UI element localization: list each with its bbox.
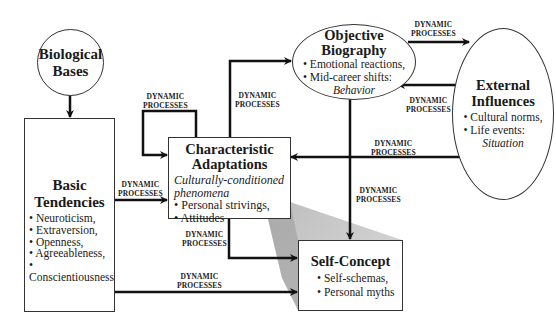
label-line: DYNAMIC [235,91,280,100]
list-item: • Extraversion, [29,225,114,237]
objective-biography-title: Objective Biography [321,28,386,58]
edge-label-external-to-adaptations: DYNAMIC PROCESSES [371,139,416,157]
characteristic-adaptations-list: • Personal strivings, • Attitudes [169,199,290,224]
title-line: Objective [321,28,386,43]
label-line: PROCESSES [118,189,163,198]
list-item: • Agreeableness, [29,248,114,260]
node-self-concept: Self-Concept • Self-schemas, • Personal … [298,240,403,311]
characteristic-adaptations-title: Characteristic Adaptations [169,142,290,172]
label-line: DYNAMIC [143,92,188,101]
edge-label-biography-to-external: DYNAMIC PROCESSES [411,20,456,38]
title-line: Tendencies [25,194,114,211]
list-item: • Self-schemas, [317,272,402,286]
self-concept-title: Self-Concept [299,253,402,270]
external-influences-list: • Cultural norms, • Life events: [463,111,542,137]
list-item: • Emotional reactions, [303,58,405,71]
label-line: DYNAMIC [118,180,163,189]
label-line: DYNAMIC [177,272,222,281]
label-line: DYNAMIC [406,96,451,105]
edge-label-self-loop: DYNAMIC PROCESSES [143,92,188,110]
characteristic-adaptations-subtitle: Culturally-conditioned phenomena [169,174,290,199]
label-line: PROCESSES [235,100,280,109]
title-line: Bases [39,63,102,80]
edge-label-external-to-biography: DYNAMIC PROCESSES [406,96,451,114]
behavior-tag: Behavior [333,84,375,97]
subtitle-line: Culturally-conditioned [174,174,290,187]
node-biological-bases: Biological Bases [37,29,104,96]
edge-label-to-objective-biography: DYNAMIC PROCESSES [235,91,280,109]
situation-tag: Situation [482,137,524,150]
label-line: PROCESSES [356,195,401,204]
edge-label-basic-to-self-concept: DYNAMIC PROCESSES [177,272,222,290]
list-item: • Attitudes [174,212,290,225]
label-line: DYNAMIC [356,186,401,195]
node-characteristic-adaptations: Characteristic Adaptations Culturally-co… [168,137,291,219]
basic-tendencies-title: Basic Tendencies [25,177,114,211]
list-item: • Conscientiousness [29,260,114,284]
list-item: • Mid-career shifts: [303,71,405,84]
label-line: PROCESSES [406,105,451,114]
node-basic-tendencies: Basic Tendencies • Neuroticism, • Extrav… [24,118,115,312]
title-line: Biological [39,46,102,63]
label-line: DYNAMIC [411,20,456,29]
title-line: Characteristic [169,142,290,157]
biological-bases-title: Biological Bases [39,46,102,80]
node-external-influences: External Influences • Cultural norms, • … [452,28,554,200]
external-influences-title: External Influences [471,78,535,109]
title-line: External [471,78,535,94]
self-concept-list: • Self-schemas, • Personal myths [299,272,402,299]
label-line: PROCESSES [411,29,456,38]
label-line: PROCESSES [371,148,416,157]
objective-biography-list: • Emotional reactions, • Mid-career shif… [303,58,405,84]
title-line: Adaptations [169,157,290,172]
edge-label-adaptations-to-self-concept: DYNAMIC PROCESSES [182,230,227,248]
label-line: PROCESSES [177,281,222,290]
basic-tendencies-list: • Neuroticism, • Extraversion, • Opennes… [25,213,114,284]
list-item: • Personal strivings, [174,199,290,212]
label-line: PROCESSES [182,239,227,248]
list-item: • Personal myths [317,286,402,300]
label-line: DYNAMIC [371,139,416,148]
title-line: Biography [321,43,386,58]
title-line: Influences [471,94,535,110]
label-line: DYNAMIC [182,230,227,239]
title-line: Basic [25,177,114,194]
label-line: PROCESSES [143,101,188,110]
list-item: • Cultural norms, [463,111,542,124]
list-item: • Life events: [463,124,542,137]
node-objective-biography: Objective Biography • Emotional reaction… [292,24,416,100]
edge-label-basic-to-adaptations: DYNAMIC PROCESSES [118,180,163,198]
edge-label-biography-to-self-concept: DYNAMIC PROCESSES [356,186,401,204]
